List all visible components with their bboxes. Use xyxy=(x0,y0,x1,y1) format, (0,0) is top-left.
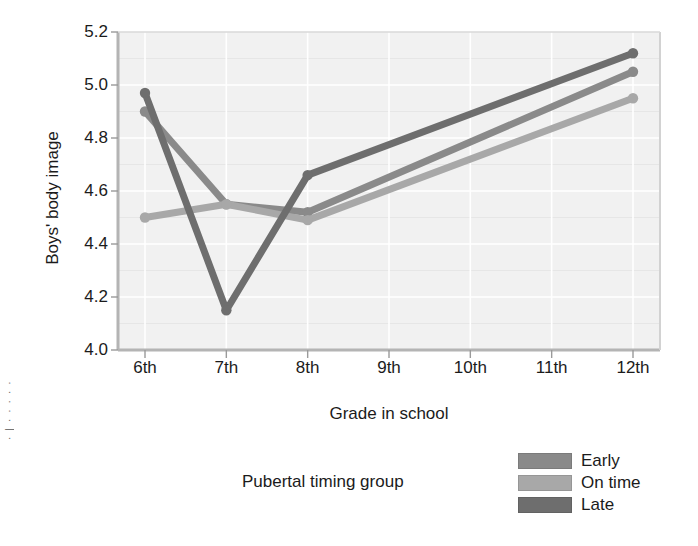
data-point xyxy=(302,215,312,225)
data-point xyxy=(140,212,150,222)
legend-item-early[interactable]: Early xyxy=(518,450,688,472)
legend-item-on-time[interactable]: On time xyxy=(518,472,688,494)
data-point xyxy=(628,48,638,58)
x-tick-label: 6th xyxy=(133,358,157,378)
x-tick-label: 8th xyxy=(296,358,320,378)
legend-item-label: On time xyxy=(581,473,641,493)
legend-item-late[interactable]: Late xyxy=(518,494,688,516)
legend-swatch-icon xyxy=(518,453,572,469)
legend-item-label: Late xyxy=(581,495,614,515)
legend-swatch-icon xyxy=(518,475,572,491)
x-tick-label: 7th xyxy=(215,358,239,378)
data-point xyxy=(221,199,231,209)
legend-item-label: Early xyxy=(581,451,620,471)
x-tick-label: 9th xyxy=(377,358,401,378)
x-tick-label: 10th xyxy=(454,358,487,378)
legend-swatch-icon xyxy=(518,497,572,513)
data-point xyxy=(628,93,638,103)
line-chart-figure: ·|····· Boys' body image 5.25.04.84.64.4… xyxy=(0,0,698,546)
legend-title: Pubertal timing group xyxy=(242,472,404,492)
data-point xyxy=(221,305,231,315)
x-axis-title: Grade in school xyxy=(118,404,660,424)
x-tick-label: 12th xyxy=(616,358,649,378)
data-point xyxy=(628,67,638,77)
x-tick-label: 11th xyxy=(536,358,568,378)
legend: EarlyOn timeLate xyxy=(518,450,688,516)
data-point xyxy=(140,88,150,98)
data-point xyxy=(302,170,312,180)
x-axis-tick-labels: 6th7th8th9th10th11th12th xyxy=(0,358,698,384)
